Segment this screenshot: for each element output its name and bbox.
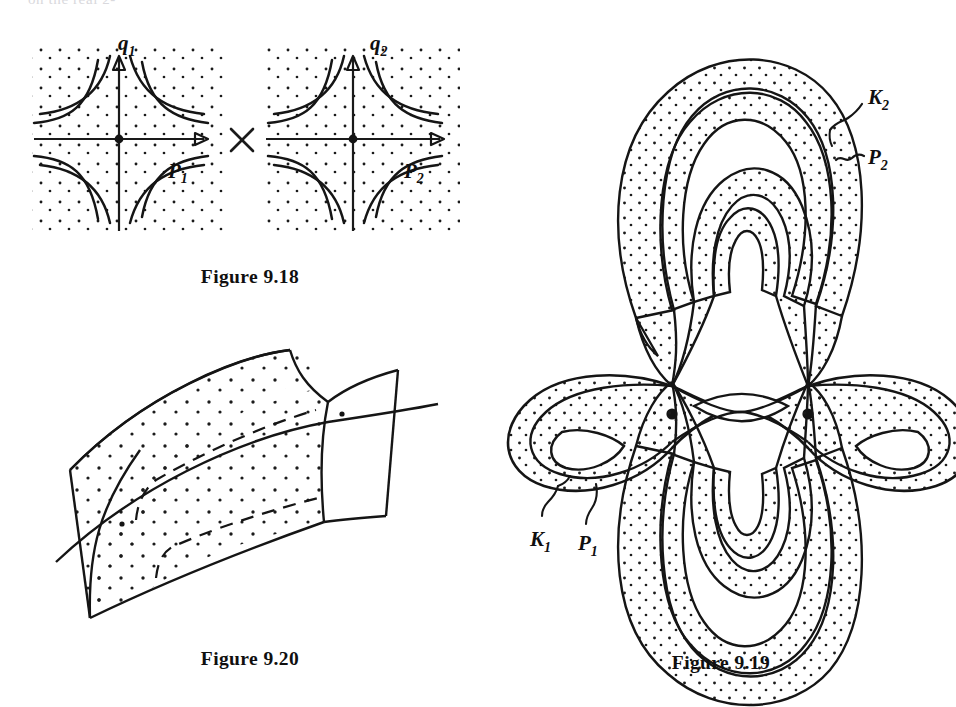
figure-9-20 <box>28 330 478 640</box>
caption-figure-9-18: Figure 9.18 <box>0 266 500 288</box>
label-q1: q1 <box>118 31 136 59</box>
label-q2: q2 <box>370 31 388 59</box>
upper-mid-right-leg-fill <box>776 296 808 386</box>
label-k2: K2 <box>867 85 889 113</box>
upper-middle-band-outer <box>691 168 812 306</box>
product-operator-times <box>231 129 253 151</box>
saddle-point-right <box>349 135 358 144</box>
lower-middle-band-outer <box>691 458 812 598</box>
upper-mid-left-leg-fill <box>672 296 714 386</box>
panel-right-saddle: q2 P2 <box>264 31 460 238</box>
label-k1: K1 <box>529 527 551 555</box>
upper-left-leg-fill <box>636 310 677 386</box>
upper-arch-assembly <box>618 59 862 386</box>
figure-9-18: q1 P1 <box>18 26 478 256</box>
label-p2: P2 <box>867 145 888 173</box>
cropped-running-text: on the real 2- <box>28 0 116 8</box>
scanned-page: on the real 2- <box>0 0 956 707</box>
caption-figure-9-19: Figure 9.19 <box>486 652 956 674</box>
panel-left-saddle: q1 P1 <box>32 31 224 238</box>
label-p1: P1 <box>577 531 598 559</box>
figure-9-19: K2 P2 K1 P1 <box>486 34 956 634</box>
caption-figure-9-20: Figure 9.20 <box>0 648 500 670</box>
saddle-point-left <box>115 135 124 144</box>
central-figure-eight <box>508 375 956 490</box>
